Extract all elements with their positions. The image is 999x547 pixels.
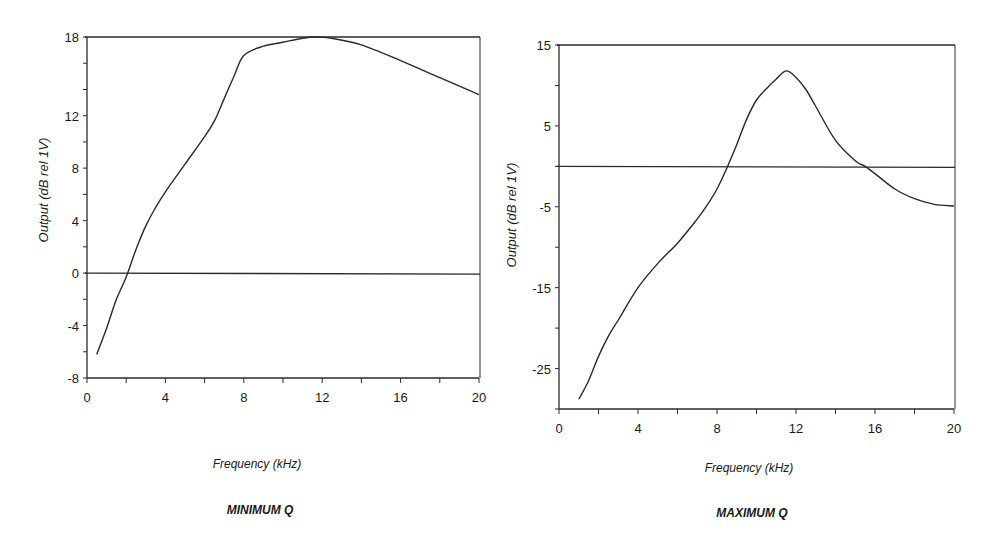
reference-line [85,273,480,274]
x-tick-label: 12 [315,390,329,405]
x-tick-label: 4 [162,390,169,405]
maximum-q-chart: -25-15-5515048121620Output (dB rel 1V) [504,38,961,436]
x-axis-label-minimum-q: Frequency (kHz) [213,457,302,471]
x-axis-label-maximum-q: Frequency (kHz) [705,461,794,475]
y-tick-label: -8 [67,371,79,386]
y-tick-label: -25 [532,362,551,377]
x-tick-label: 20 [472,390,486,405]
chart-title-minimum-q: MINIMUM Q [227,503,294,517]
x-tick-label: 8 [240,390,247,405]
y-tick-label: 18 [65,30,79,45]
minimum-q-chart: -8-40481218048121620Output (dB rel 1V) [36,30,486,405]
x-tick-label: 0 [83,390,90,405]
x-tick-label: 4 [634,421,641,436]
y-tick-label: 8 [72,161,79,176]
y-tick-label: 0 [72,266,79,281]
y-tick-label: -4 [67,319,79,334]
y-tick-label: 4 [72,214,79,229]
y-axis-label: Output (dB rel 1V) [504,163,519,268]
y-tick-label: 12 [65,109,79,124]
y-tick-label: 5 [544,119,551,134]
x-tick-label: 16 [393,390,407,405]
y-tick-label: -5 [539,200,551,215]
charts-canvas: -8-40481218048121620Output (dB rel 1V) -… [0,0,999,547]
chart-title-maximum-q: MAXIMUM Q [716,506,787,520]
x-tick-label: 8 [713,421,720,436]
x-tick-label: 0 [555,421,562,436]
x-tick-label: 16 [868,421,882,436]
response-curve [97,37,479,354]
response-curve [579,71,954,399]
x-tick-label: 12 [789,421,803,436]
y-tick-label: -15 [532,281,551,296]
reference-line [557,166,955,167]
x-tick-label: 20 [947,421,961,436]
y-tick-label: 15 [537,38,551,53]
y-axis-label: Output (dB rel 1V) [36,138,51,243]
